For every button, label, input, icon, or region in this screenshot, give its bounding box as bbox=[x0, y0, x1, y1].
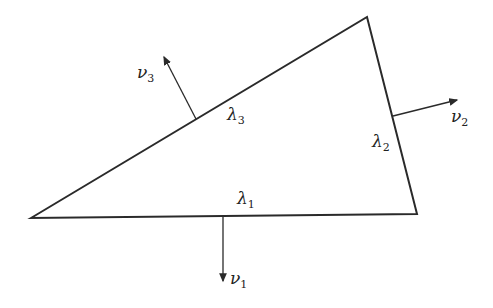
edge-label-lambda3: λ3 bbox=[227, 106, 245, 126]
edge-label-lambda1: λ1 bbox=[237, 190, 255, 210]
normal-arrow-nu2 bbox=[393, 100, 457, 116]
edge-label-lambda2: λ2 bbox=[372, 133, 390, 153]
diagram-svg bbox=[0, 0, 493, 308]
triangle-diagram: λ1 λ2 λ3 ν1 ν2 ν3 bbox=[0, 0, 493, 308]
normal-label-nu3: ν3 bbox=[137, 64, 154, 84]
normal-arrow-nu3 bbox=[164, 57, 196, 119]
normal-label-nu2: ν2 bbox=[451, 108, 468, 128]
normal-label-nu1: ν1 bbox=[230, 270, 247, 290]
triangle bbox=[31, 17, 417, 218]
